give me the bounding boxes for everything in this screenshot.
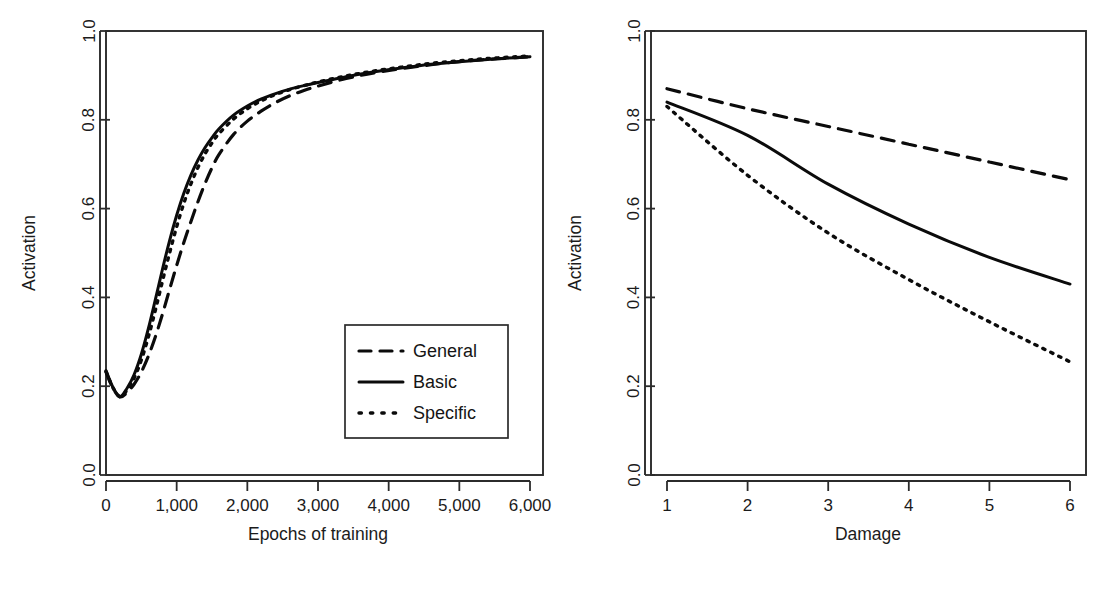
y-tick-label: 0.6 xyxy=(625,197,644,221)
x-tick-label: 3,000 xyxy=(297,496,340,515)
plot-frame xyxy=(651,31,1086,475)
series-line-basic xyxy=(667,102,1070,284)
x-tick-label: 6,000 xyxy=(509,496,552,515)
series-line-specific xyxy=(667,106,1070,361)
epochs-plot-canvas: 0.00.20.40.60.81.001,0002,0003,0004,0005… xyxy=(0,0,558,595)
x-tick-label: 5,000 xyxy=(438,496,481,515)
y-tick-label: 0.4 xyxy=(80,286,99,310)
legend-label-specific: Specific xyxy=(413,403,476,423)
legend-label-general: General xyxy=(413,341,477,361)
x-tick-label: 4 xyxy=(904,496,913,515)
y-tick-label: 0.2 xyxy=(625,374,644,398)
damage-plot-canvas: 0.00.20.40.60.81.0123456ActivationDamage xyxy=(557,0,1115,595)
series-line-general xyxy=(667,89,1070,180)
x-tick-label: 2 xyxy=(743,496,752,515)
y-tick-label: 1.0 xyxy=(625,19,644,43)
x-tick-label: 4,000 xyxy=(367,496,410,515)
y-tick-label: 0.8 xyxy=(80,108,99,132)
legend-label-basic: Basic xyxy=(413,372,457,392)
x-axis-title: Damage xyxy=(835,524,901,544)
figure-two-panel-line-charts: 0.00.20.40.60.81.001,0002,0003,0004,0005… xyxy=(0,0,1115,595)
x-axis-title: Epochs of training xyxy=(248,524,388,544)
x-tick-label: 3 xyxy=(823,496,832,515)
damage-panel: 0.00.20.40.60.81.0123456ActivationDamage xyxy=(557,0,1115,595)
x-tick-label: 6 xyxy=(1065,496,1074,515)
x-tick-label: 2,000 xyxy=(226,496,269,515)
x-tick-label: 1 xyxy=(662,496,671,515)
y-tick-label: 0.0 xyxy=(80,463,99,487)
x-tick-label: 5 xyxy=(985,496,994,515)
y-tick-label: 1.0 xyxy=(80,19,99,43)
y-tick-label: 0.2 xyxy=(80,374,99,398)
y-axis-title: Activation xyxy=(565,215,585,291)
y-tick-label: 0.0 xyxy=(625,463,644,487)
y-tick-label: 0.6 xyxy=(80,197,99,221)
x-tick-label: 0 xyxy=(101,496,110,515)
y-axis-title: Activation xyxy=(19,215,39,291)
x-tick-label: 1,000 xyxy=(155,496,198,515)
y-tick-label: 0.8 xyxy=(625,108,644,132)
epochs-panel: 0.00.20.40.60.81.001,0002,0003,0004,0005… xyxy=(0,0,558,595)
y-tick-label: 0.4 xyxy=(625,286,644,310)
